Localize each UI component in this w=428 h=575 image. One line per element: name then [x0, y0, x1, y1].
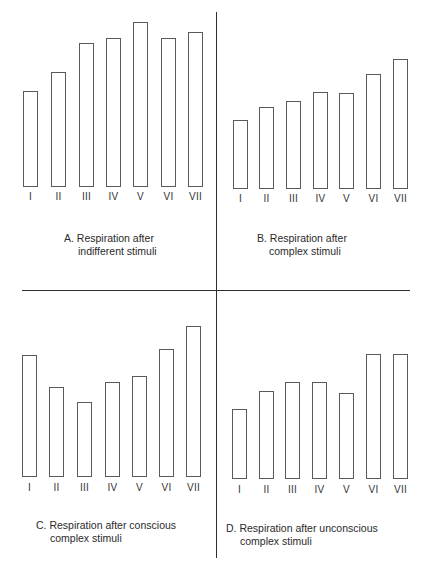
panel-b-caption-line2: complex stimuli	[257, 245, 347, 258]
panel-c-bar-iii	[77, 402, 92, 477]
panel-c-bar-iv	[105, 382, 120, 477]
panel-a-tick-label: II	[44, 191, 74, 202]
panel-a-caption-line2: indifferent stimuli	[64, 245, 157, 258]
panel-b-bar-iv	[313, 92, 328, 189]
panel-b-bar-vi	[366, 74, 381, 189]
panel-d-tick-label: I	[225, 484, 255, 495]
panel-b-bar-iii	[286, 101, 301, 189]
panel-a-caption: A. Respiration after indifferent stimuli	[64, 232, 157, 258]
panel-c-caption-line1: C. Respiration after conscious	[36, 519, 176, 531]
panel-d-bar-vii	[393, 354, 408, 479]
panel-c-bar-vi	[159, 349, 174, 477]
panel-d-caption-line2: complex stimuli	[226, 535, 378, 548]
panel-a-tick-label: IV	[99, 191, 129, 202]
panel-c-bar-v	[132, 376, 147, 477]
panel-d-caption-line1: D. Respiration after unconscious	[226, 522, 378, 534]
panel-c-bar-i	[22, 355, 37, 477]
vertical-quadrant-divider	[216, 12, 217, 558]
panel-d-caption: D. Respiration after unconscious complex…	[226, 522, 378, 548]
panel-b-tick-label: VI	[359, 193, 389, 204]
panel-c-tick-label: VI	[152, 482, 182, 493]
panel-d-bar-ii	[259, 391, 274, 479]
panel-a-bar-iii	[79, 43, 94, 187]
panel-b-caption-line1: B. Respiration after	[257, 232, 347, 244]
panel-c-tick-label: IV	[98, 482, 128, 493]
panel-a-tick-label: VII	[181, 191, 211, 202]
panel-d-tick-label: V	[332, 484, 362, 495]
panel-b-bar-i	[233, 120, 248, 189]
panel-d-tick-label: III	[278, 484, 308, 495]
panel-c-caption-line2: complex stimuli	[36, 532, 176, 545]
panel-a-tick-label: VI	[154, 191, 184, 202]
panel-b-bar-ii	[259, 107, 274, 189]
panel-d-bar-i	[232, 409, 247, 479]
panel-a-bar-v	[133, 22, 148, 187]
panel-b-caption: B. Respiration after complex stimuli	[257, 232, 347, 258]
panel-d-bar-iii	[285, 382, 300, 479]
panel-a-bar-i	[23, 91, 38, 187]
panel-c-tick-label: I	[15, 482, 45, 493]
panel-b-bar-v	[339, 93, 354, 189]
panel-a-caption-line1: A. Respiration after	[64, 232, 154, 244]
horizontal-quadrant-divider	[22, 290, 410, 291]
panel-d-bar-vi	[366, 354, 381, 479]
panel-d-tick-label: VI	[359, 484, 389, 495]
panel-a-bar-ii	[51, 72, 66, 187]
panel-d-bar-v	[339, 393, 354, 479]
panel-b-tick-label: VII	[386, 193, 416, 204]
panel-a-bar-vi	[161, 38, 176, 187]
panel-c-bar-ii	[49, 387, 64, 477]
panel-d-tick-label: VII	[386, 484, 416, 495]
panel-a-tick-label: III	[72, 191, 102, 202]
panel-d-tick-label: IV	[305, 484, 335, 495]
panel-d-bar-iv	[312, 382, 327, 479]
panel-c-tick-label: III	[70, 482, 100, 493]
panel-b-tick-label: II	[252, 193, 282, 204]
panel-b-bar-vii	[393, 59, 408, 189]
panel-c-tick-label: V	[125, 482, 155, 493]
panel-a-bar-vii	[188, 32, 203, 187]
panel-b-tick-label: V	[332, 193, 362, 204]
panel-c-tick-label: II	[42, 482, 72, 493]
panel-b-tick-label: III	[279, 193, 309, 204]
panel-c-bar-vii	[186, 326, 201, 477]
panel-a-bar-iv	[106, 38, 121, 187]
panel-c-tick-label: VII	[179, 482, 209, 493]
panel-a-tick-label: V	[126, 191, 156, 202]
panel-a-tick-label: I	[16, 191, 46, 202]
panel-c-caption: C. Respiration after conscious complex s…	[36, 519, 176, 545]
